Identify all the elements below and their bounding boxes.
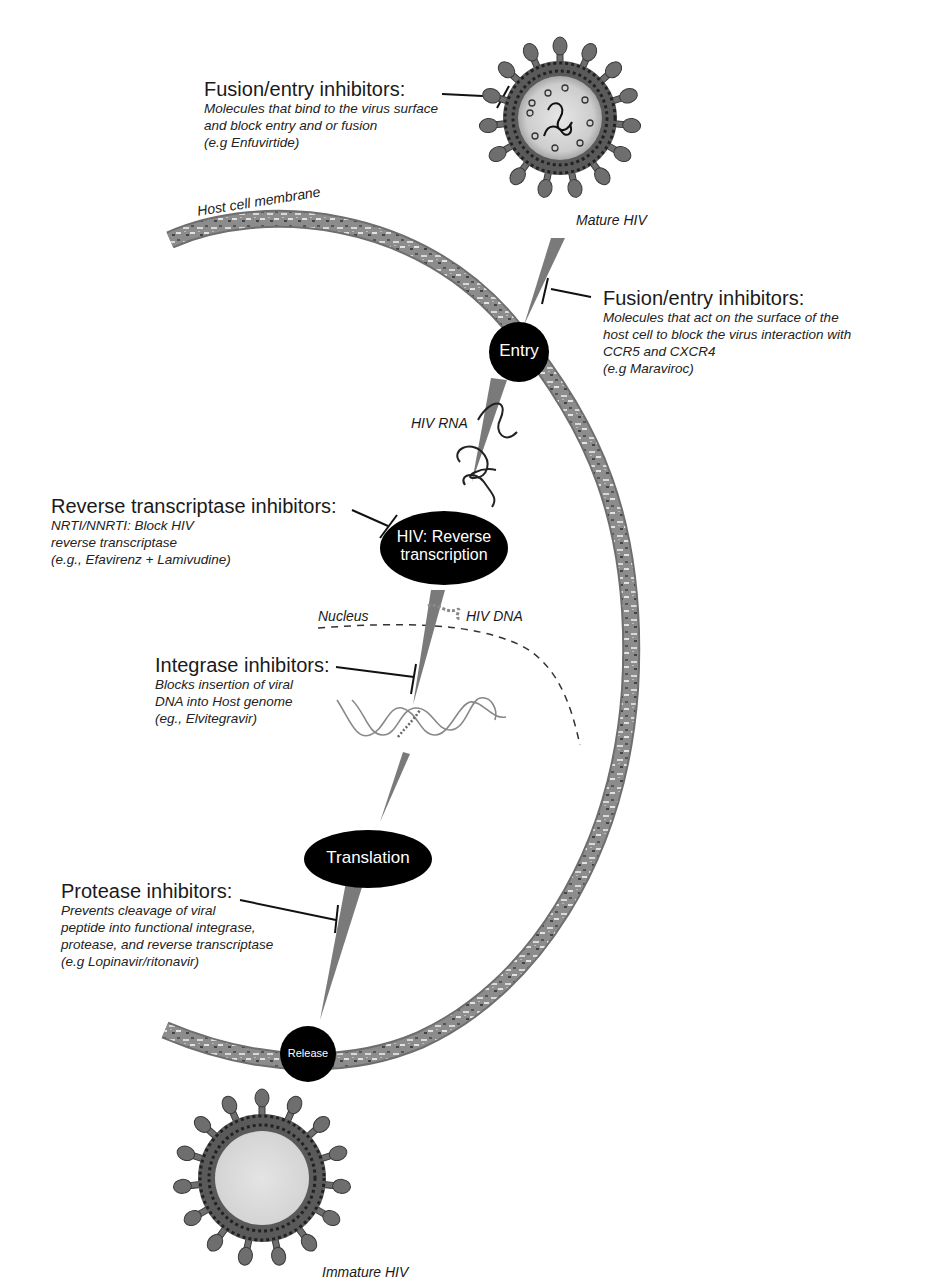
inhibitor-reverse-transcriptase: Reverse transcriptase inhibitors: NRTI/N… [51, 495, 337, 568]
inhibitor-desc-line: (e.g., Efavirenz + Lamivudine) [51, 551, 337, 568]
inhibitor-desc-line: Blocks insertion of viral [155, 676, 330, 693]
node-translation-label: Translation [308, 848, 428, 868]
immature-hiv-virion [173, 1089, 351, 1267]
node-entry-label: Entry [489, 341, 549, 361]
mature-hiv-label: Mature HIV [576, 212, 647, 228]
inhibitor-desc-line: reverse transcriptase [51, 534, 337, 551]
fusion-host-blocker [542, 278, 591, 304]
inhibitor-desc-line: NRTI/NNRTI: Block HIV [51, 517, 337, 534]
arrow-integration-to-translation [380, 752, 410, 822]
inhibitor-desc-line: peptide into functional integrase, [61, 919, 273, 936]
inhibitor-desc-line: (eg., Elvitegravir) [155, 710, 330, 727]
hiv-lifecycle-diagram: Entry HIV: Reverse transcription Transla… [0, 0, 941, 1285]
inhibitor-fusion-entry-host: Fusion/entry inhibitors: Molecules that … [603, 287, 851, 377]
node-release-label: Release [280, 1047, 336, 1059]
integrase-blocker [336, 664, 416, 694]
inhibitor-desc-line: (e.g Maraviroc) [603, 360, 851, 377]
node-rt-line-1: HIV: Reverse [384, 528, 504, 546]
inhibitor-title: Fusion/entry inhibitors: [204, 78, 438, 100]
inhibitor-title: Reverse transcriptase inhibitors: [51, 495, 337, 517]
inhibitor-title: Integrase inhibitors: [155, 654, 330, 676]
inhibitor-desc-line: (e.g Lopinavir/ritonavir) [61, 953, 273, 970]
node-rt-line-2: transcription [384, 546, 504, 564]
arrow-virus-to-entry [524, 238, 565, 325]
inhibitor-title: Protease inhibitors: [61, 880, 273, 902]
arrow-entry-to-rt [472, 378, 507, 482]
inhibitor-fusion-entry-virus: Fusion/entry inhibitors: Molecules that … [204, 78, 438, 151]
diagram-canvas [0, 0, 941, 1285]
inhibitor-desc-line: Prevents cleavage of viral [61, 902, 273, 919]
inhibitor-integrase: Integrase inhibitors: Blocks insertion o… [155, 654, 330, 727]
mature-hiv-virion [479, 37, 642, 199]
inhibitor-desc-line: and block entry and or fusion [204, 117, 438, 134]
nucleus-label: Nucleus [318, 608, 369, 624]
inhibitor-desc-line: host cell to block the virus interaction… [603, 326, 851, 343]
inhibitor-desc-line: CCR5 and CXCR4 [603, 343, 851, 360]
node-reverse-transcription-label: HIV: Reverse transcription [384, 528, 504, 564]
hiv-dna-label: HIV DNA [466, 608, 523, 624]
immature-hiv-label: Immature HIV [322, 1264, 408, 1280]
inhibitor-desc-line: Molecules that act on the surface of the [603, 309, 851, 326]
host-genome-helix [337, 698, 506, 737]
inhibitor-desc-line: Molecules that bind to the virus surface [204, 100, 438, 117]
hiv-rna-label: HIV RNA [411, 415, 468, 431]
inhibitor-title: Fusion/entry inhibitors: [603, 287, 851, 309]
inhibitor-desc-line: DNA into Host genome [155, 693, 330, 710]
inhibitor-desc-line: (e.g Enfuvirtide) [204, 134, 438, 151]
arrow-translation-to-release [320, 882, 363, 1020]
inhibitor-desc-line: protease, and reverse transcriptase [61, 936, 273, 953]
inhibitor-protease: Protease inhibitors: Prevents cleavage o… [61, 880, 273, 970]
